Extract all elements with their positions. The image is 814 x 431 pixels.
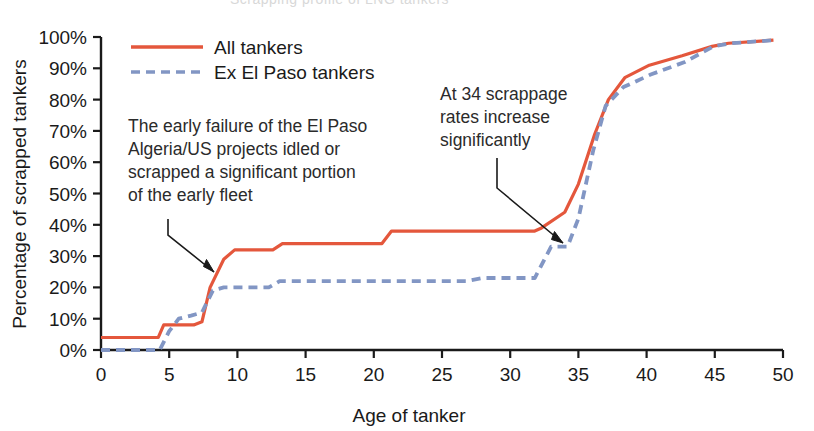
y-axis-tick-label: 70% [49,121,87,142]
y-axis-tick-label: 80% [49,90,87,111]
annotation-early-failure-line-2: Algeria/US projects idled or [128,139,340,159]
y-axis-tick-label: 90% [49,58,87,79]
y-axis-tick-label: 40% [49,215,87,236]
annotation-early-failure-line-4: of the early fleet [128,185,253,205]
x-axis-tick-label: 10 [227,364,248,385]
y-axis-tick-label: 10% [49,309,87,330]
legend-label-ex-el-paso-tankers: Ex El Paso tankers [214,62,375,83]
annotation-early-failure-line-3: scrapped a significant portion [128,162,356,182]
x-axis-ticks [101,350,783,358]
y-axis-tick-labels: 0%10%20%30%40%50%60%70%80%90%100% [38,27,87,361]
x-axis-tick-label: 5 [164,364,175,385]
x-axis-tick-labels: 05101520253035404550 [96,364,794,385]
legend: All tankers Ex El Paso tankers [131,37,375,83]
x-axis-tick-label: 15 [295,364,316,385]
chart-figure: Scrapping profile of LNG tankers 0%10%20… [0,0,814,431]
legend-label-all-tankers: All tankers [214,37,303,58]
x-axis-tick-label: 30 [500,364,521,385]
x-axis-tick-label: 20 [363,364,384,385]
annotation-early-failure-arrowhead [204,260,215,273]
chart-canvas: 0%10%20%30%40%50%60%70%80%90%100% 051015… [0,0,814,431]
y-axis-tick-label: 20% [49,277,87,298]
annotation-scrappage-line-2: rates increase [440,107,550,127]
y-axis-tick-label: 30% [49,246,87,267]
y-axis-tick-label: 0% [60,340,88,361]
x-axis-tick-label: 50 [772,364,793,385]
x-axis-tick-label: 45 [704,364,725,385]
y-axis-title: Percentage of scrapped tankers [9,59,30,328]
annotation-scrappage-line-1: At 34 scrappage [440,84,567,104]
annotation-scrappage-arrowhead [552,232,564,244]
annotation-early-failure-line-1: The early failure of the El Paso [128,116,367,136]
x-axis-tick-label: 0 [96,364,107,385]
x-axis-tick-label: 40 [636,364,657,385]
x-axis-tick-label: 35 [568,364,589,385]
annotation-scrappage-line-3: significantly [440,130,531,150]
annotation-scrappage-at-34: At 34 scrappage rates increase significa… [440,84,567,243]
x-axis-tick-label: 25 [431,364,452,385]
y-axis-tick-label: 50% [49,184,87,205]
y-axis-tick-label: 100% [38,27,87,48]
y-axis-tick-label: 60% [49,152,87,173]
x-axis-title: Age of tanker [352,405,466,426]
